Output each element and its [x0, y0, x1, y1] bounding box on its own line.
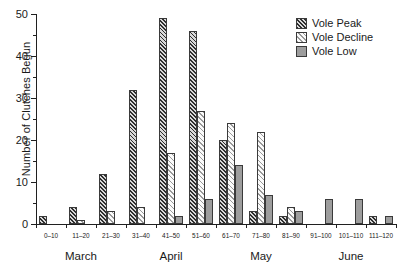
month-label: March: [65, 251, 97, 263]
bar: [249, 211, 257, 224]
legend-item: Vole Decline: [296, 32, 373, 43]
bar-group: [39, 14, 63, 224]
bar: [197, 111, 205, 224]
x-tick-label: 0–10: [44, 233, 58, 239]
bar: [189, 31, 197, 224]
bar: [205, 199, 213, 224]
y-tick-label: 30: [16, 93, 28, 104]
x-tick: [276, 224, 277, 228]
x-tick-label: 91–100: [310, 233, 331, 239]
x-tick-label: 31–40: [132, 233, 150, 239]
bar: [159, 18, 167, 224]
bar: [77, 220, 85, 224]
bar: [369, 216, 377, 224]
x-tick-label: 81–90: [282, 233, 300, 239]
bar: [325, 199, 333, 224]
x-tick: [126, 224, 127, 228]
bar: [99, 174, 107, 224]
bar: [227, 123, 235, 224]
x-tick-label: 71–80: [252, 233, 270, 239]
x-tick-label: 101–110: [339, 233, 363, 239]
bar: [137, 207, 145, 224]
y-tick-major: [31, 140, 36, 141]
x-tick-label: 21–30: [102, 233, 120, 239]
x-tick: [246, 224, 247, 228]
bar: [129, 90, 137, 224]
y-tick-label: 50: [16, 9, 28, 20]
month-label: June: [339, 251, 364, 263]
y-tick-minor: [33, 119, 36, 120]
x-tick: [66, 224, 67, 228]
x-tick-label: 111–120: [369, 233, 393, 239]
bar: [295, 211, 303, 224]
bar: [235, 165, 243, 224]
y-tick-major: [31, 98, 36, 99]
x-tick-label: 51–60: [192, 233, 210, 239]
x-tick: [366, 224, 367, 228]
legend-swatch-icon: [296, 32, 307, 43]
month-label: May: [250, 251, 272, 263]
bar-group: [249, 14, 273, 224]
legend-label: Vole Low: [312, 46, 357, 57]
x-tick: [306, 224, 307, 228]
bar: [69, 207, 77, 224]
month-label: April: [159, 251, 182, 263]
bar: [287, 207, 295, 224]
y-tick-major: [31, 56, 36, 57]
bar-group: [189, 14, 213, 224]
legend-swatch-icon: [296, 46, 307, 57]
bar: [175, 216, 183, 224]
legend-item: Vole Low: [296, 46, 373, 57]
legend-label: Vole Peak: [312, 18, 362, 29]
x-tick: [186, 224, 187, 228]
bar-group: [99, 14, 123, 224]
bar: [167, 153, 175, 224]
bar-group: [129, 14, 153, 224]
x-tick: [36, 224, 37, 228]
bar: [39, 216, 47, 224]
chart-legend: Vole PeakVole DeclineVole Low: [296, 18, 373, 60]
y-tick-minor: [33, 77, 36, 78]
x-tick-label: 11–20: [72, 233, 89, 239]
bar: [265, 195, 273, 224]
legend-item: Vole Peak: [296, 18, 373, 29]
chart-figure: Number of Clutches Begun 01020304050 0–1…: [0, 0, 408, 278]
bar: [219, 140, 227, 224]
x-tick: [156, 224, 157, 228]
x-tick: [336, 224, 337, 228]
legend-swatch-icon: [296, 18, 307, 29]
bar: [257, 132, 265, 224]
y-tick-minor: [33, 203, 36, 204]
x-tick: [396, 224, 397, 228]
bar: [279, 216, 287, 224]
y-tick-label: 20: [16, 135, 28, 146]
y-tick-label: 40: [16, 51, 28, 62]
bar: [107, 211, 115, 224]
bar-group: [159, 14, 183, 224]
x-tick: [216, 224, 217, 228]
legend-label: Vole Decline: [312, 32, 373, 43]
bar: [385, 216, 393, 224]
y-tick-major: [31, 182, 36, 183]
x-tick-label: 61–70: [222, 233, 240, 239]
y-tick-label: 0: [22, 219, 28, 230]
y-tick-label: 10: [16, 177, 28, 188]
x-tick: [96, 224, 97, 228]
bar: [355, 199, 363, 224]
y-tick-major: [31, 14, 36, 15]
bar-group: [69, 14, 93, 224]
bar-group: [219, 14, 243, 224]
y-tick-minor: [33, 161, 36, 162]
y-tick-minor: [33, 35, 36, 36]
x-tick-label: 41–50: [162, 233, 180, 239]
